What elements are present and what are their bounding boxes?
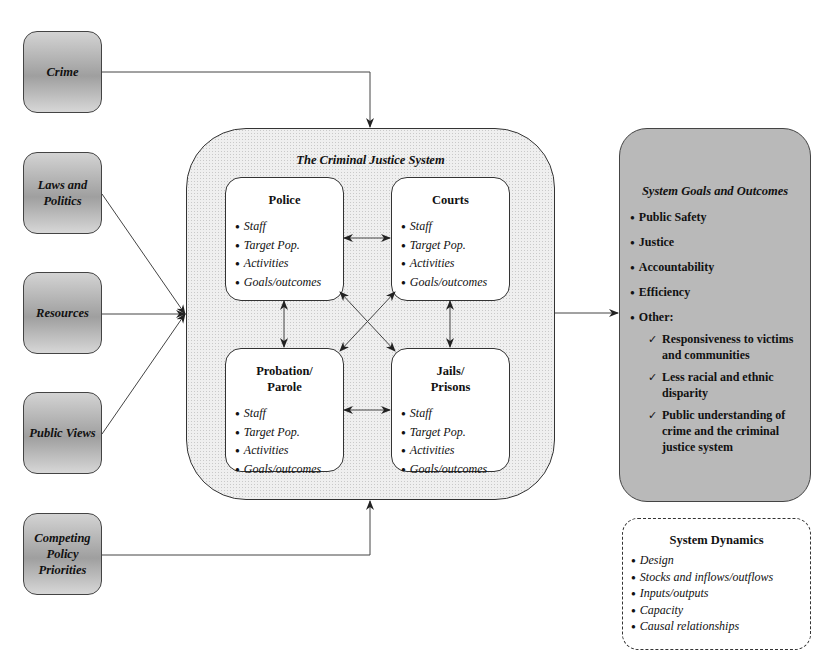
other-goal-item: ✓Responsiveness to victims and communiti…: [648, 331, 812, 363]
checkmark-icon: ✓: [648, 331, 657, 347]
list-item: Staff: [235, 405, 343, 424]
agency-attributes: Staff Target Pop. Activities Goals/outco…: [401, 218, 509, 292]
list-item: Target Pop.: [401, 424, 509, 443]
input-laws-and-politics: Laws and Politics: [23, 152, 102, 234]
list-item: Capacity: [631, 603, 810, 620]
bullet-icon: ●: [630, 213, 635, 222]
arrow-crime-to-system: [102, 72, 370, 127]
list-item: Target Pop.: [235, 237, 343, 256]
goal-item: ●Accountability: [630, 259, 810, 277]
list-item: Stocks and inflows/outflows: [631, 570, 810, 587]
input-public-views: Public Views: [23, 392, 102, 474]
other-goal-item: ✓Less racial and ethnic disparity: [648, 369, 812, 401]
goal-item-other: ●Other: ✓Responsiveness to victims and c…: [630, 309, 810, 455]
arrow-laws-to-system: [102, 194, 185, 314]
input-laws-label: Laws and Politics: [33, 177, 93, 209]
checkmark-icon: ✓: [648, 369, 657, 385]
input-public-views-label: Public Views: [29, 425, 95, 441]
input-resources-label: Resources: [36, 305, 89, 321]
list-item: Goals/outcomes: [401, 461, 509, 480]
list-item: Staff: [401, 405, 509, 424]
bullet-icon: ●: [630, 263, 635, 272]
list-item: Goals/outcomes: [235, 274, 343, 293]
list-item: Activities: [401, 442, 509, 461]
goal-item: ●Efficiency: [630, 284, 810, 302]
list-item: Staff: [235, 218, 343, 237]
bullet-icon: ●: [630, 313, 635, 322]
agency-title: Probation/ Parole: [245, 363, 325, 395]
goals-title: System Goals and Outcomes: [620, 184, 810, 199]
list-item: Design: [631, 553, 810, 570]
input-crime-label: Crime: [47, 64, 79, 80]
list-item: Activities: [401, 255, 509, 274]
bullet-icon: ●: [630, 288, 635, 297]
agency-title: Courts: [392, 192, 509, 208]
system-dynamics: System Dynamics Design Stocks and inflow…: [622, 518, 811, 650]
other-goals-list: ✓Responsiveness to victims and communiti…: [648, 331, 810, 455]
agency-courts: Courts Staff Target Pop. Activities Goal…: [391, 177, 510, 301]
input-resources: Resources: [23, 272, 102, 354]
goal-item: ●Public Safety: [630, 209, 810, 227]
agency-police: Police Staff Target Pop. Activities Goal…: [225, 177, 344, 301]
list-item: Activities: [235, 442, 343, 461]
input-crime: Crime: [23, 31, 102, 113]
goals-list: ●Public Safety ●Justice ●Accountability …: [630, 209, 810, 455]
agency-jails-prisons: Jails/ Prisons Staff Target Pop. Activit…: [391, 348, 510, 472]
list-item: Causal relationships: [631, 619, 810, 636]
bullet-icon: ●: [630, 238, 635, 247]
goal-item: ●Justice: [630, 234, 810, 252]
system-title: The Criminal Justice System: [187, 153, 554, 168]
other-goal-item: ✓Public understanding of crime and the c…: [648, 407, 812, 455]
list-item: Inputs/outputs: [631, 586, 810, 603]
list-item: Goals/outcomes: [401, 274, 509, 293]
agency-title: Police: [226, 192, 343, 208]
list-item: Target Pop.: [235, 424, 343, 443]
agency-title: Jails/ Prisons: [421, 363, 481, 395]
list-item: Activities: [235, 255, 343, 274]
agency-attributes: Staff Target Pop. Activities Goals/outco…: [235, 218, 343, 292]
agency-attributes: Staff Target Pop. Activities Goals/outco…: [401, 405, 509, 479]
arrow-competing-to-system: [102, 501, 370, 555]
checkmark-icon: ✓: [648, 407, 657, 423]
input-competing-policy-priorities: Competing Policy Priorities: [23, 513, 102, 595]
input-competing-label: Competing Policy Priorities: [31, 530, 95, 578]
list-item: Target Pop.: [401, 237, 509, 256]
agency-attributes: Staff Target Pop. Activities Goals/outco…: [235, 405, 343, 479]
agency-probation-parole: Probation/ Parole Staff Target Pop. Acti…: [225, 348, 344, 472]
arrow-public-views-to-system: [102, 314, 185, 434]
dynamics-title: System Dynamics: [623, 533, 810, 548]
dynamics-list: Design Stocks and inflows/outflows Input…: [631, 553, 810, 636]
list-item: Staff: [401, 218, 509, 237]
list-item: Goals/outcomes: [235, 461, 343, 480]
system-goals-and-outcomes: System Goals and Outcomes ●Public Safety…: [619, 128, 811, 502]
